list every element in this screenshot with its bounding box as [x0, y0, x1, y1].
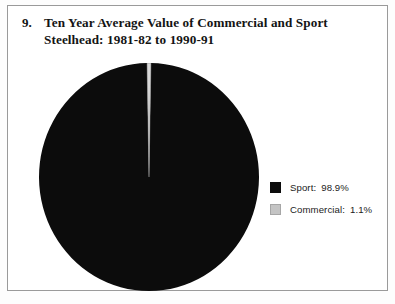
figure-title: 9. Ten Year Average Value of Commercial … [22, 14, 372, 48]
figure-title-text: Ten Year Average Value of Commercial and… [44, 14, 328, 48]
scanned-page: 9. Ten Year Average Value of Commercial … [0, 0, 395, 304]
title-line-1: Ten Year Average Value of Commercial and… [44, 14, 328, 31]
chart-legend: Sport: 98.9% Commercial: 1.1% [270, 176, 390, 220]
legend-value-sport: 98.9% [321, 182, 349, 193]
pie-svg [39, 63, 259, 291]
legend-label-sport: Sport: [290, 182, 316, 193]
pie-chart [39, 63, 259, 291]
legend-label-commercial: Commercial: [290, 204, 345, 215]
legend-item-sport: Sport: 98.9% [270, 176, 390, 198]
chart-area [16, 54, 278, 296]
legend-value-commercial: 1.1% [350, 204, 372, 215]
legend-item-commercial: Commercial: 1.1% [270, 198, 390, 220]
legend-swatch-sport-icon [270, 182, 281, 193]
legend-swatch-commercial-icon [270, 204, 281, 215]
title-line-2: Steelhead: 1981-82 to 1990-91 [44, 31, 328, 48]
figure-frame: 9. Ten Year Average Value of Commercial … [7, 5, 388, 291]
figure-number: 9. [22, 14, 44, 31]
